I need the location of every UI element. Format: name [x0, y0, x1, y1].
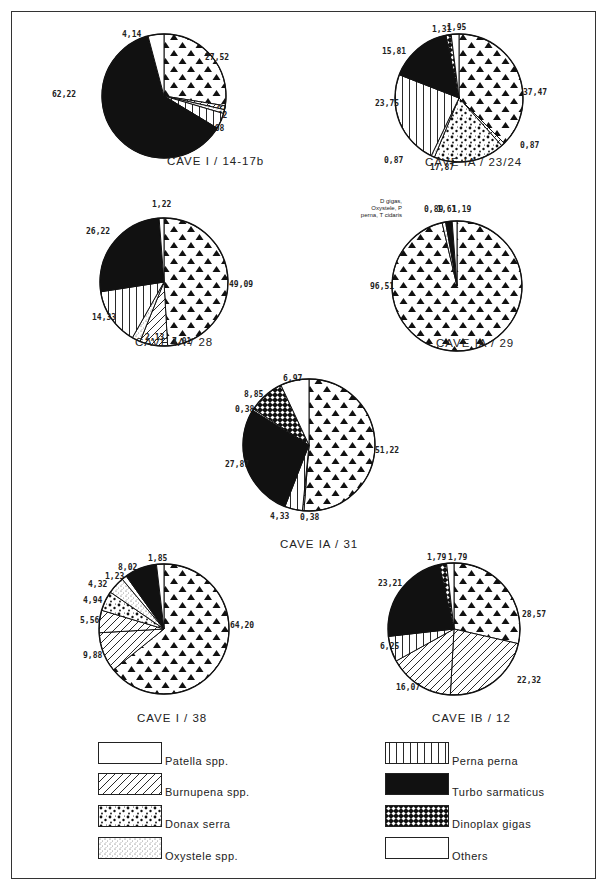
legend-label: Perna perna: [452, 755, 518, 767]
caption-cave-ib-12: CAVE IB / 12: [432, 712, 511, 724]
legend-dinoplax: Dinoplax gigas: [385, 805, 531, 827]
swatch-perna: [385, 742, 449, 764]
legend-burnupena: Burnupena spp.: [98, 773, 250, 795]
slice-value-label: 1,79: [427, 553, 446, 562]
caption-cave-i-38: CAVE I / 38: [137, 712, 207, 724]
slice-value-label: 16,07: [396, 683, 420, 692]
caption-cave-i-14-17b: CAVE I / 14-17b: [167, 155, 264, 167]
legend-turbo: Turbo sarmaticus: [385, 773, 545, 795]
swatch-patella: [98, 742, 162, 764]
swatch-dinoplax: [385, 805, 449, 827]
swatch-others: [385, 837, 449, 859]
legend-label: Others: [452, 850, 488, 862]
caption-cave-ia-28: CAVE IA / 28: [135, 336, 213, 348]
legend-label: Donax serra: [165, 818, 230, 830]
legend-perna: Perna perna: [385, 742, 518, 764]
slice-value-label: 1,79: [448, 553, 467, 562]
legend-label: Turbo sarmaticus: [452, 786, 545, 798]
legend-donax: Donax serra: [98, 805, 230, 827]
swatch-oxystele: [98, 837, 162, 859]
legend-label: Dinoplax gigas: [452, 818, 531, 830]
swatch-turbo: [385, 773, 449, 795]
swatch-burnupena: [98, 773, 162, 795]
caption-cave-ia-31: CAVE IA / 31: [280, 538, 358, 550]
legend-others: Others: [385, 837, 488, 859]
slice-value-label: 28,57: [522, 610, 546, 619]
legend-label: Oxystele spp.: [165, 850, 238, 862]
caption-cave-ia-29: CAVE IA / 29: [436, 337, 514, 349]
swatch-donax: [98, 805, 162, 827]
legend-patella: Patella spp.: [98, 742, 228, 764]
legend-label: Burnupena spp.: [165, 786, 250, 798]
pie-29-species-note: D gigas, Oxystele, P perna, T cidaris: [360, 198, 402, 219]
slice-value-label: 22,32: [517, 676, 541, 685]
legend-label: Patella spp.: [165, 755, 228, 767]
slice-value-label: 23,21: [378, 579, 402, 588]
legend-oxystele: Oxystele spp.: [98, 837, 238, 859]
caption-cave-ia-23-24: CAVE IA / 23/24: [425, 156, 522, 168]
